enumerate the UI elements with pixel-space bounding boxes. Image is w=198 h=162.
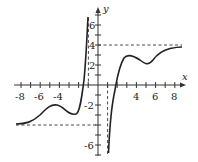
function-graph: x y -8 -6 -4 4 6 8 6 4 2 -2 -6 bbox=[0, 0, 198, 162]
y-tick-label: 6 bbox=[89, 20, 95, 31]
y-tick-label: -2 bbox=[84, 100, 94, 111]
x-tick-label: -4 bbox=[53, 91, 63, 102]
y-tick-label: 2 bbox=[89, 60, 95, 71]
axes bbox=[14, 10, 184, 156]
y-axis-label: y bbox=[102, 3, 109, 14]
left-branch bbox=[16, 17, 88, 124]
asymptotes bbox=[16, 18, 182, 155]
x-tick-label: 8 bbox=[171, 91, 177, 102]
x-tick-label: 4 bbox=[133, 91, 139, 102]
y-axis-arrow-icon bbox=[96, 7, 101, 13]
x-tick-label: 6 bbox=[152, 91, 158, 102]
y-tick-label: -6 bbox=[84, 140, 94, 151]
x-axis-arrow-icon bbox=[180, 83, 186, 88]
x-axis-label: x bbox=[182, 71, 188, 82]
y-tick-label: 4 bbox=[89, 40, 95, 51]
x-tick-label: -6 bbox=[34, 91, 44, 102]
x-tick-label: -8 bbox=[15, 91, 25, 102]
